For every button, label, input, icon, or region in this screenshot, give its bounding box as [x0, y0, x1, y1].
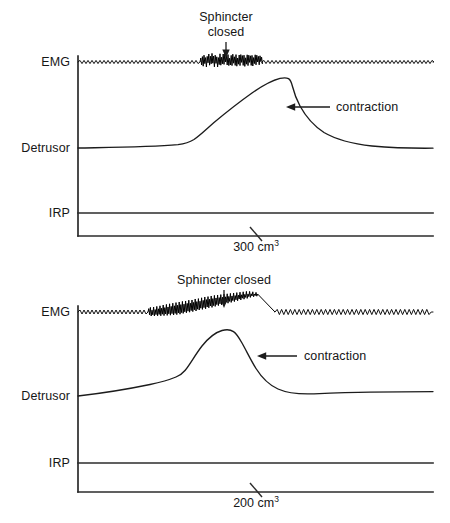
emg-quiet-left-300 — [78, 60, 200, 63]
sphincter-closed-line1: Sphincter — [199, 10, 253, 24]
emg-quiet-left-200 — [78, 310, 148, 314]
sphincter-closed-label-300: Sphincter closed — [166, 10, 286, 40]
detrusor-trace-200 — [78, 330, 433, 396]
contraction-arrow-200 — [257, 352, 297, 360]
emg-quiet-right-200 — [275, 309, 433, 314]
volume-tick-200 — [250, 483, 262, 497]
axis-label-emg-300: EMG — [8, 55, 70, 69]
sphincter-closed-label-200: Sphincter closed — [154, 273, 294, 288]
axis-label-detrusor-300: Detrusor — [0, 141, 70, 155]
emg-quiet-right-300 — [262, 60, 434, 63]
volume-unit-200: cm — [257, 496, 274, 510]
contraction-label-300: contraction — [336, 100, 398, 114]
volume-exponent-200: 3 — [274, 494, 279, 504]
volume-label-200: 200 cm3 — [206, 496, 306, 510]
volume-label-300: 300 cm3 — [206, 240, 306, 254]
sphincter-closed-line2: closed — [166, 25, 286, 40]
contraction-arrow-300 — [286, 103, 330, 111]
axis-label-irp-300: IRP — [8, 206, 70, 220]
axis-label-detrusor-200: Detrusor — [0, 389, 70, 403]
sphincter-closed-line1: Sphincter closed — [177, 273, 271, 287]
volume-value-200: 200 — [233, 496, 254, 510]
contraction-label-200: contraction — [304, 349, 366, 363]
volume-unit-300: cm — [257, 240, 274, 254]
panel-200cm3: EMG Detrusor IRP Sphincter closed contra… — [0, 261, 450, 523]
axis-label-emg-200: EMG — [8, 305, 70, 319]
panel-300cm3: EMG Detrusor IRP Sphincter closed contra… — [0, 0, 450, 262]
volume-tick-300 — [250, 227, 262, 241]
volume-exponent-300: 3 — [274, 238, 279, 248]
volume-value-300: 300 — [233, 240, 254, 254]
emg-burst-200 — [148, 291, 275, 316]
urodynamic-figure: EMG Detrusor IRP Sphincter closed contra… — [0, 0, 450, 523]
emg-burst-300 — [200, 53, 262, 67]
axis-label-irp-200: IRP — [8, 456, 70, 470]
